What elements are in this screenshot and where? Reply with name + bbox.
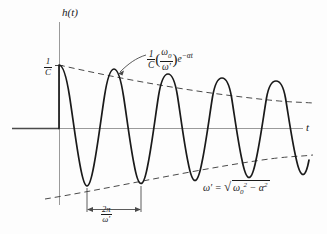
axis-label-h-of-t: h(t): [62, 7, 78, 18]
omega-prime-symbol: ω′: [203, 182, 212, 193]
envelope-annotation-leader: [120, 55, 146, 72]
exponential-exponent: −αt: [182, 51, 193, 60]
period-arrow-head-left: [87, 207, 93, 212]
envelope-equation-label: 1 C ( ω0 ω′ )e−αt: [147, 47, 193, 72]
tick-label-one-over-c: 1 C: [44, 57, 52, 78]
period-label: 2π ω′: [101, 205, 112, 225]
equals-sign: =: [215, 182, 222, 193]
omega-ratio-fraction: ω0 ω′: [160, 47, 172, 72]
omega-ratio-denominator: ω′: [160, 62, 172, 72]
fraction-denominator: C: [44, 68, 52, 78]
omega-prime-formula-label: ω′ = √ ω02 − α2: [203, 180, 270, 196]
omega-zero-subscript: 0: [168, 52, 172, 60]
damped-sinusoid-curve: [59, 65, 309, 186]
period-arrow-head-right: [135, 207, 141, 212]
period-fraction: 2π ω′: [101, 205, 112, 225]
period-denominator: ω′: [101, 215, 112, 224]
omega-zero-term: ω: [233, 182, 240, 193]
damped-oscillation-figure: h(t) t 1 C 1 C ( ω0 ω′ )e−αt ω′ = √ ω02 …: [0, 0, 327, 234]
lower-envelope-curve: [45, 155, 313, 199]
omega-zero-sub: 0: [240, 188, 244, 196]
radicand: ω02 − α2: [232, 180, 270, 196]
alpha-sup: 2: [264, 181, 268, 189]
plot-canvas: [0, 0, 327, 234]
square-root-expression: √ ω02 − α2: [224, 180, 270, 196]
omega-ratio-numerator: ω0: [160, 47, 172, 62]
axis-label-t: t: [306, 122, 309, 133]
minus-sign: −: [250, 182, 257, 193]
fraction-one-over-c: 1 C: [44, 57, 52, 78]
omega-zero-sup: 2: [244, 181, 248, 189]
radical-sign-icon: √: [224, 180, 231, 193]
